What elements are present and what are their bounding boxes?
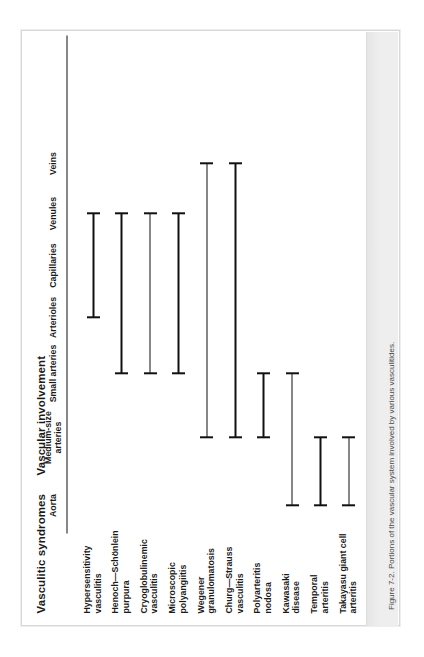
header-rule [66,35,67,533]
range-bar [319,437,321,505]
range-bar [206,163,208,437]
row-label-temporal-arteritis: Temporalarteritis [309,574,330,613]
figure-caption: Figure 7-2. Portions of the vascular sys… [387,342,396,610]
row-label-hypersensitivity-vasculitis: Hypersensitivityvasculitis [82,545,103,613]
column-header-aorta: Aorta [47,494,57,517]
range-bar [234,163,236,437]
range-bar [149,213,151,373]
range-bar-cap [342,504,355,506]
column-header-veins: Veins [47,152,57,175]
range-bar-cap [285,504,298,506]
row-label-henoch-sch-nlein-purpura: Henoch—Schönleinpurpura [110,530,131,613]
range-bar-cap [172,372,185,374]
range-bar-cap [115,372,128,374]
range-bar [348,437,350,505]
range-bar-cap [200,436,213,438]
range-bar-cap [228,162,241,164]
range-bar-cap [314,436,327,438]
range-bar-cap [172,212,185,214]
column-header-arterioles: Arterioles [47,296,57,337]
range-bar-cap [86,212,99,214]
rotated-figure-container: Vasculitic syndromes Vascular involvemen… [22,31,399,625]
range-bar [291,373,293,505]
caption-strip: Figure 7-2. Portions of the vascular sys… [366,32,398,626]
range-bar-cap [314,504,327,506]
row-label-churg-strauss-vasculitis: Churg—Straussvasculitis [224,546,245,613]
row-label-takayasu-giant-cell-arteritis: Takayasu giant cellarteritis [337,533,358,613]
vasculitis-range-chart: Vasculitic syndromes Vascular involvemen… [22,31,399,625]
row-label-microscopic-polyangiitis: Microscopicpolyangiitis [167,562,188,613]
column-header-venules: Venules [47,196,57,229]
range-bar-cap [200,162,213,164]
range-bar-cap [257,436,270,438]
range-bar-cap [342,436,355,438]
range-bar-cap [86,316,99,318]
column-header-capillaries: Capillaries [47,243,57,288]
column-header-small-arteries: Small arteries [47,344,57,402]
row-label-cryoglobulinemic-vasculitis: Cryoglobulinemicvasculitis [138,539,159,613]
range-bar [177,213,179,373]
row-label-wegener-granulomatosis: Wegenergranulomatosis [195,548,216,614]
range-bar-cap [285,372,298,374]
figure-canvas: Vasculitic syndromes Vascular involvemen… [22,31,399,625]
range-bar-cap [257,372,270,374]
range-bar-cap [143,372,156,374]
figure-page: Vasculitic syndromes Vascular involvemen… [21,30,400,626]
range-bar [120,213,122,373]
row-label-polyarteritis-nodosa: Polyarteritisnodosa [252,562,273,613]
row-group-title: Vasculitic syndromes [34,493,46,613]
row-label-kawasaki-disease: Kawasakidisease [280,573,301,613]
document-viewer: Vasculitic syndromes Vascular involvemen… [0,0,424,657]
column-header-medium-size-arteries: Medium-sizearteries [42,411,62,464]
range-bar-cap [143,212,156,214]
range-bar [262,373,264,437]
range-bar [92,213,94,317]
range-bar-cap [115,212,128,214]
range-bar-cap [228,436,241,438]
